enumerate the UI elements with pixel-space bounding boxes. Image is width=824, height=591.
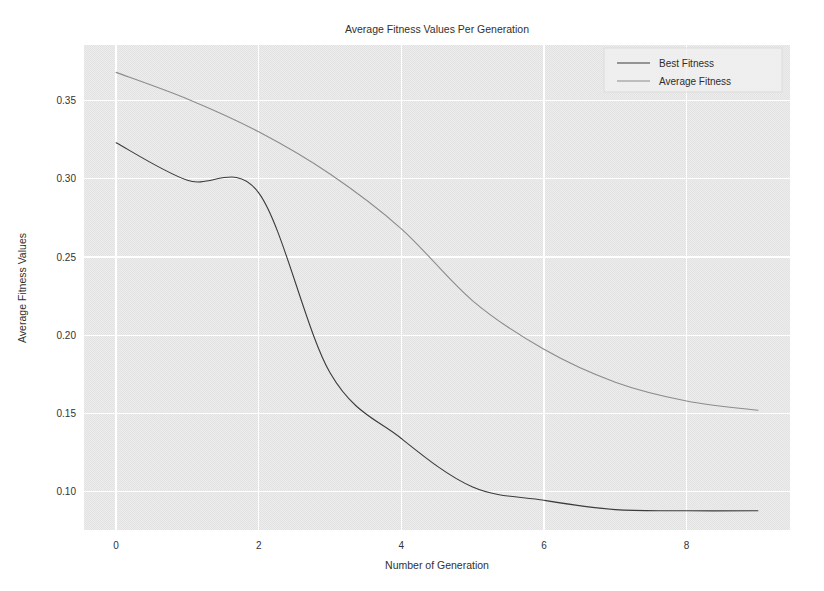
y-tick-label: 0.30 — [57, 173, 77, 184]
legend-label-0: Best Fitness — [659, 58, 714, 69]
y-tick-label: 0.20 — [57, 330, 77, 341]
plot-area-background — [84, 45, 790, 530]
x-tick-label: 2 — [256, 540, 262, 551]
y-tick-label: 0.35 — [57, 95, 77, 106]
x-tick-label: 8 — [684, 540, 690, 551]
x-tick-label: 4 — [399, 540, 405, 551]
y-axis-label: Average Fitness Values — [16, 233, 28, 343]
chart-title: Average Fitness Values Per Generation — [345, 23, 529, 35]
line-chart: 02468 0.100.150.200.250.300.35 Average F… — [0, 0, 824, 591]
y-tick-label: 0.15 — [57, 408, 77, 419]
chart-legend: Best FitnessAverage Fitness — [604, 48, 782, 92]
y-tick-label: 0.25 — [57, 252, 77, 263]
legend-label-1: Average Fitness — [659, 76, 731, 87]
x-tick-label: 0 — [113, 540, 119, 551]
x-tick-label: 6 — [541, 540, 547, 551]
x-axis-label: Number of Generation — [385, 559, 489, 571]
y-tick-labels: 0.100.150.200.250.300.35 — [57, 95, 77, 497]
figure-canvas: 02468 0.100.150.200.250.300.35 Average F… — [0, 0, 824, 591]
y-tick-label: 0.10 — [57, 486, 77, 497]
x-tick-labels: 02468 — [113, 540, 690, 551]
